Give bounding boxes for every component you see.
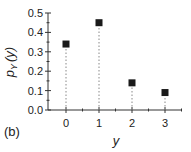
y-tick-label: 0.0 bbox=[28, 104, 43, 116]
pmf-chart: 0.00.10.20.30.40.5 0123 y pY(y) (b) bbox=[0, 0, 191, 152]
data-stems bbox=[66, 26, 165, 110]
x-axis-label: y bbox=[112, 133, 121, 148]
x-tick-label: 3 bbox=[162, 117, 168, 129]
data-point-marker bbox=[96, 19, 103, 26]
y-axis: 0.00.10.20.30.40.5 bbox=[28, 7, 51, 116]
data-point-marker bbox=[129, 79, 136, 86]
y-tick-label: 0.2 bbox=[28, 65, 43, 77]
data-point-marker bbox=[63, 41, 70, 48]
x-tick-label: 2 bbox=[129, 117, 135, 129]
y-tick-label: 0.3 bbox=[28, 46, 43, 58]
x-tick-label: 1 bbox=[96, 117, 102, 129]
data-markers bbox=[63, 19, 169, 96]
x-axis: 0123 bbox=[48, 107, 182, 129]
panel-label: (b) bbox=[4, 124, 20, 139]
y-tick-label: 0.1 bbox=[28, 85, 43, 97]
y-axis-label: pY(y) bbox=[2, 47, 19, 78]
y-axis-label-main: p bbox=[2, 70, 17, 78]
y-tick-label: 0.5 bbox=[28, 7, 43, 19]
y-axis-label-arg: (y) bbox=[2, 47, 17, 62]
y-axis-label-sub: Y bbox=[9, 63, 19, 70]
x-tick-label: 0 bbox=[63, 117, 69, 129]
data-point-marker bbox=[162, 89, 169, 96]
y-tick-label: 0.4 bbox=[28, 26, 43, 38]
